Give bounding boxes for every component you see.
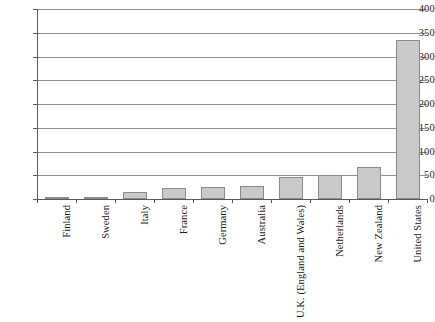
bar[interactable]: [318, 175, 342, 199]
x-tick-mark: [154, 199, 155, 203]
x-axis-label: Finland: [61, 205, 72, 238]
bar[interactable]: [123, 192, 147, 199]
bar-chart: 400 350 300 250 200 150 100 50 0 Finland…: [0, 0, 435, 322]
x-tick-mark: [310, 199, 311, 203]
bar-slot: [388, 9, 427, 199]
x-tick-mark: [427, 199, 428, 203]
bar-slot: [76, 9, 115, 199]
bar[interactable]: [240, 186, 264, 199]
x-tick-mark: [37, 199, 38, 203]
x-tick-mark: [193, 199, 194, 203]
bar[interactable]: [84, 197, 108, 199]
x-tick-mark: [271, 199, 272, 203]
bar-slot: [232, 9, 271, 199]
x-axis-label: Germany: [217, 205, 228, 245]
bar-slot: [271, 9, 310, 199]
bar[interactable]: [279, 177, 303, 199]
x-tick-mark: [349, 199, 350, 203]
x-axis-label: Australia: [256, 205, 267, 244]
bar-slot: [193, 9, 232, 199]
bar-slot: [310, 9, 349, 199]
bar-slot: [115, 9, 154, 199]
x-axis-labels: FinlandSwedenItalyFranceGermanyAustralia…: [37, 205, 427, 320]
bar-slot: [154, 9, 193, 199]
bar[interactable]: [45, 197, 69, 199]
bar[interactable]: [162, 188, 186, 199]
x-axis-label: U.K. (England and Wales): [295, 205, 306, 318]
bar-slot: [37, 9, 76, 199]
x-axis-label: United States: [412, 205, 423, 263]
x-axis-label: Netherlands: [334, 205, 345, 257]
x-axis-label: France: [178, 205, 189, 234]
x-axis-label: Sweden: [100, 205, 111, 239]
x-tick-mark: [232, 199, 233, 203]
bar[interactable]: [396, 40, 420, 199]
x-axis-label: New Zealand: [373, 205, 384, 262]
bars-layer: [37, 9, 427, 199]
x-tick-mark: [76, 199, 77, 203]
bar[interactable]: [357, 167, 381, 199]
x-axis-label: Italy: [139, 205, 150, 225]
x-tick-mark: [115, 199, 116, 203]
bar-slot: [349, 9, 388, 199]
bar[interactable]: [201, 187, 225, 199]
x-tick-mark: [388, 199, 389, 203]
